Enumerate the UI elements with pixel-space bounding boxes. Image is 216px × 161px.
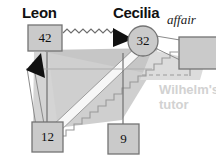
- node-affair-box[interactable]: [179, 37, 216, 69]
- node-label-leon: Leon: [22, 4, 57, 21]
- node-cecilia-circle[interactable]: [128, 26, 158, 56]
- node-bottom-right-box[interactable]: [108, 124, 139, 154]
- diagram-canvas: Leon Cecilia affair Wilhelm's tutor 42 3…: [0, 0, 216, 161]
- node-leon-box[interactable]: [28, 25, 62, 51]
- wilhelm-line-2: tutor: [159, 97, 216, 112]
- node-bottom-left-box[interactable]: [32, 122, 63, 152]
- wilhelm-line-1: Wilhelm's: [159, 82, 216, 97]
- node-label-affair: affair: [167, 12, 196, 28]
- node-label-cecilia: Cecilia: [113, 4, 159, 21]
- zigzag-leon-to-cecilia: [63, 28, 133, 47]
- node-label-wilhelm-tutor: Wilhelm's tutor: [159, 82, 216, 112]
